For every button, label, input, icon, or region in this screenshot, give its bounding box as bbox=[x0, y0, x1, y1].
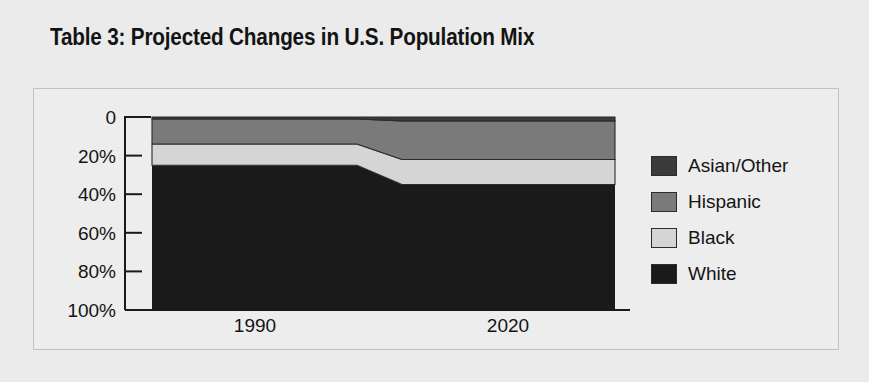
legend-item-label: White bbox=[688, 263, 737, 285]
legend-item[interactable]: Hispanic bbox=[651, 184, 831, 220]
legend-swatch-hispanic bbox=[651, 192, 677, 212]
legend-item-label: Hispanic bbox=[688, 191, 761, 213]
chart-figure: Table 3: Projected Changes in U.S. Popul… bbox=[0, 0, 869, 382]
page-title: Table 3: Projected Changes in U.S. Popul… bbox=[50, 24, 534, 51]
legend-item-label: Black bbox=[688, 227, 734, 249]
legend-swatch-white bbox=[651, 264, 677, 284]
legend-item[interactable]: Black bbox=[651, 220, 831, 256]
legend-item[interactable]: Asian/Other bbox=[651, 148, 831, 184]
legend-item-label: Asian/Other bbox=[688, 155, 788, 177]
legend-swatch-black bbox=[651, 228, 677, 248]
legend-item[interactable]: White bbox=[651, 256, 831, 292]
chart-legend: Asian/OtherHispanicBlackWhite bbox=[651, 148, 831, 292]
legend-swatch-asian-other bbox=[651, 156, 677, 176]
